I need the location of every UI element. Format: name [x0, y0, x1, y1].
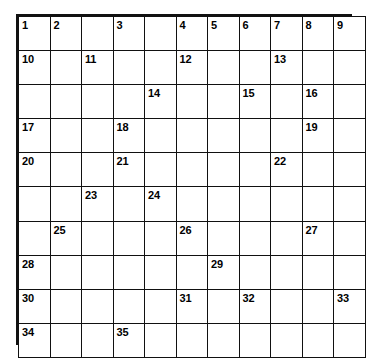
open-cell[interactable]: [82, 289, 114, 323]
open-cell[interactable]: [208, 153, 240, 187]
open-cell[interactable]: 23: [82, 187, 114, 221]
open-cell[interactable]: [82, 255, 114, 289]
crossword-table: 1234567891011121314151617181920212223242…: [18, 16, 366, 358]
open-cell[interactable]: [50, 187, 82, 221]
open-cell[interactable]: 32: [239, 289, 271, 323]
open-cell[interactable]: [208, 187, 240, 221]
open-cell[interactable]: 34: [19, 323, 51, 357]
open-cell[interactable]: [50, 323, 82, 357]
open-cell[interactable]: 22: [271, 153, 303, 187]
open-cell[interactable]: [271, 221, 303, 255]
open-cell[interactable]: 27: [302, 221, 334, 255]
open-cell[interactable]: [208, 221, 240, 255]
open-cell[interactable]: 8: [302, 17, 334, 51]
open-cell[interactable]: [239, 119, 271, 153]
open-cell[interactable]: [239, 221, 271, 255]
open-cell[interactable]: 16: [302, 85, 334, 119]
open-cell[interactable]: [334, 85, 366, 119]
open-cell[interactable]: 6: [239, 17, 271, 51]
open-cell[interactable]: [82, 119, 114, 153]
open-cell[interactable]: [208, 85, 240, 119]
open-cell[interactable]: [208, 119, 240, 153]
open-cell[interactable]: [334, 153, 366, 187]
open-cell[interactable]: [302, 255, 334, 289]
open-cell[interactable]: 20: [19, 153, 51, 187]
open-cell[interactable]: 25: [50, 221, 82, 255]
open-cell[interactable]: [334, 51, 366, 85]
open-cell[interactable]: [334, 119, 366, 153]
open-cell[interactable]: [176, 119, 208, 153]
open-cell[interactable]: 10: [19, 51, 51, 85]
open-cell[interactable]: [19, 85, 51, 119]
open-cell[interactable]: [208, 323, 240, 357]
open-cell[interactable]: [50, 255, 82, 289]
open-cell[interactable]: [334, 221, 366, 255]
open-cell[interactable]: [82, 221, 114, 255]
open-cell[interactable]: 31: [176, 289, 208, 323]
open-cell[interactable]: [302, 153, 334, 187]
cell-number: 13: [271, 51, 302, 65]
open-cell[interactable]: 21: [113, 153, 145, 187]
open-cell[interactable]: [113, 289, 145, 323]
open-cell[interactable]: [82, 85, 114, 119]
crossword-row: 123456789: [19, 17, 366, 51]
open-cell[interactable]: 28: [19, 255, 51, 289]
open-cell[interactable]: [19, 187, 51, 221]
shaded-block: [19, 221, 51, 255]
open-cell[interactable]: 1: [19, 17, 51, 51]
open-cell[interactable]: [302, 51, 334, 85]
open-cell[interactable]: 14: [145, 85, 177, 119]
open-cell[interactable]: 30: [19, 289, 51, 323]
open-cell[interactable]: 33: [334, 289, 366, 323]
open-cell[interactable]: [50, 289, 82, 323]
open-cell[interactable]: [239, 153, 271, 187]
open-cell[interactable]: [113, 255, 145, 289]
open-cell[interactable]: [176, 153, 208, 187]
open-cell[interactable]: 9: [334, 17, 366, 51]
open-cell[interactable]: 2: [50, 17, 82, 51]
open-cell[interactable]: [145, 255, 177, 289]
shaded-block: [271, 85, 303, 119]
open-cell[interactable]: 15: [239, 85, 271, 119]
open-cell[interactable]: [239, 255, 271, 289]
open-cell[interactable]: [271, 323, 303, 357]
open-cell[interactable]: [302, 289, 334, 323]
open-cell[interactable]: [50, 85, 82, 119]
open-cell[interactable]: 5: [208, 17, 240, 51]
open-cell[interactable]: [145, 119, 177, 153]
open-cell[interactable]: [176, 187, 208, 221]
open-cell[interactable]: 18: [113, 119, 145, 153]
open-cell[interactable]: [334, 323, 366, 357]
open-cell[interactable]: [176, 85, 208, 119]
open-cell[interactable]: [50, 51, 82, 85]
open-cell[interactable]: [50, 153, 82, 187]
open-cell[interactable]: 7: [271, 17, 303, 51]
cell-number: 9: [334, 17, 365, 31]
open-cell[interactable]: [271, 289, 303, 323]
open-cell[interactable]: 26: [176, 221, 208, 255]
open-cell[interactable]: [145, 323, 177, 357]
open-cell[interactable]: [145, 153, 177, 187]
open-cell[interactable]: [208, 51, 240, 85]
open-cell[interactable]: [271, 187, 303, 221]
open-cell[interactable]: [176, 323, 208, 357]
open-cell[interactable]: [113, 221, 145, 255]
open-cell[interactable]: 19: [302, 119, 334, 153]
open-cell[interactable]: [302, 323, 334, 357]
open-cell[interactable]: [145, 17, 177, 51]
open-cell[interactable]: 29: [208, 255, 240, 289]
open-cell[interactable]: [271, 255, 303, 289]
open-cell[interactable]: [50, 119, 82, 153]
open-cell[interactable]: 12: [176, 51, 208, 85]
open-cell[interactable]: 35: [113, 323, 145, 357]
open-cell[interactable]: 17: [19, 119, 51, 153]
open-cell[interactable]: 3: [113, 17, 145, 51]
open-cell[interactable]: [113, 51, 145, 85]
open-cell[interactable]: [239, 187, 271, 221]
open-cell[interactable]: 13: [271, 51, 303, 85]
open-cell[interactable]: 4: [176, 17, 208, 51]
open-cell[interactable]: [239, 323, 271, 357]
open-cell[interactable]: [334, 187, 366, 221]
open-cell[interactable]: 24: [145, 187, 177, 221]
open-cell[interactable]: 11: [82, 51, 114, 85]
